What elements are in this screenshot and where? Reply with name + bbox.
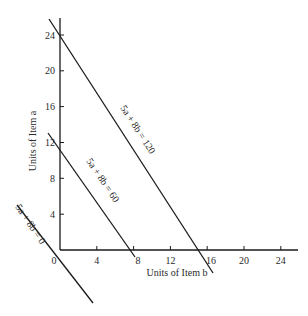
y-tick-label-4: 4: [50, 209, 55, 220]
x-tick-label-12: 12: [165, 255, 175, 266]
isocost-label-0: 5a + 8b = 0: [13, 202, 48, 246]
y-tick-label-12: 12: [45, 137, 55, 148]
y-tick-label-20: 20: [45, 65, 55, 76]
x-axis-title: Units of Item b: [147, 267, 208, 278]
x-tick-label-24: 24: [276, 255, 286, 266]
x-tick-label-8: 8: [136, 255, 141, 266]
x-tick-label-20: 20: [239, 255, 249, 266]
origin-label: 0: [52, 255, 57, 266]
y-tick-label-8: 8: [50, 173, 55, 184]
y-axis-title: Units of Item a: [27, 110, 38, 171]
isocost-label-60: 5a + 8b = 60: [84, 156, 121, 204]
x-tick-label-4: 4: [94, 255, 99, 266]
isocost-label-120: 5a + 8b = 120: [118, 103, 158, 156]
y-tick-label-16: 16: [45, 101, 55, 112]
y-tick-label-24: 24: [45, 30, 55, 41]
isocost-line-120: [49, 19, 213, 273]
isocost-line-60: [48, 133, 135, 257]
isocost-diagram: 0 4 8 12 16 20 24 4 8 12 16 20 24 Units …: [0, 0, 308, 316]
